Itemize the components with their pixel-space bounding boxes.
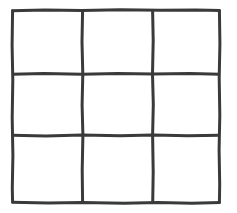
cell-r3-c1 xyxy=(13,136,83,203)
cell-r3-c3 xyxy=(153,136,220,203)
cell-r1-c1 xyxy=(13,11,83,75)
cell-r2-c1 xyxy=(13,74,83,136)
cell-r3-c2 xyxy=(83,136,154,203)
grid-cell-layer xyxy=(13,11,220,203)
figure-canvas xyxy=(0,0,237,213)
cell-r2-c2 xyxy=(83,74,154,136)
cell-r2-c3 xyxy=(153,74,220,136)
hand-drawn-grid-figure xyxy=(0,0,237,213)
cell-r1-c2 xyxy=(83,11,154,75)
cell-r1-c3 xyxy=(153,11,220,75)
